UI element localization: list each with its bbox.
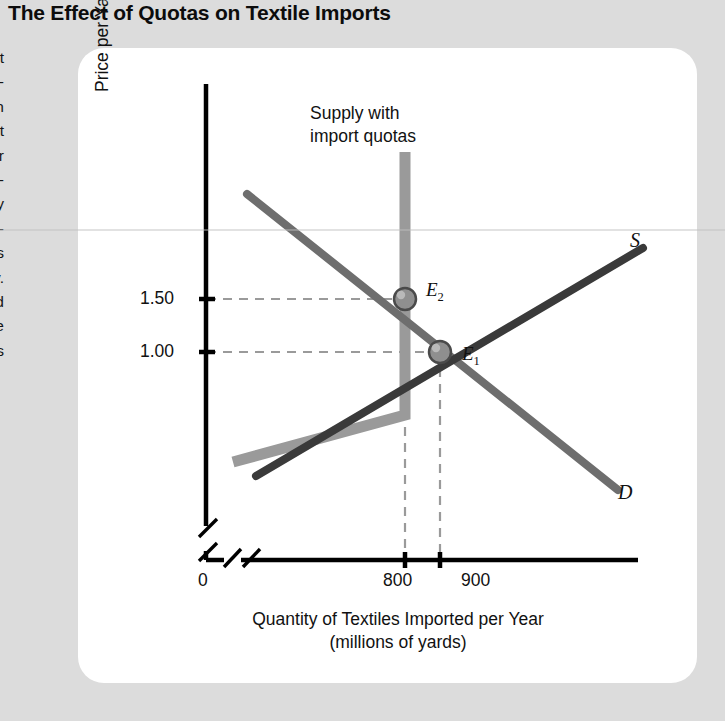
x-tick-label-800: 800 xyxy=(383,570,412,591)
equilibrium-2-subscript: 2 xyxy=(438,290,444,304)
chart-axes xyxy=(206,84,638,560)
equilibrium-1-label: E1 xyxy=(462,343,480,369)
equilibrium-1-subscript: 1 xyxy=(474,354,480,368)
equilibrium-2-letter: E xyxy=(426,279,438,300)
y-tick-label-150: 1.50 xyxy=(140,288,174,309)
supply-curve-label: S xyxy=(630,229,640,252)
figure-card: Supply with import quotas S D E2 E1 1.50… xyxy=(78,48,697,683)
page-title: The Effect of Quotas on Textile Imports xyxy=(8,1,391,25)
equilibrium-1-letter: E xyxy=(462,343,474,364)
demand-curve-label: D xyxy=(618,481,632,504)
y-tick-label-100: 1.00 xyxy=(140,341,174,362)
x-axis-title-line1: Quantity of Textiles Imported per Year xyxy=(178,608,618,631)
margin-caption-text: point f tex- d each ates at 0 per ern- o… xyxy=(0,46,4,363)
quota-annotation-line1: Supply with xyxy=(310,102,416,125)
marker-e1-highlight xyxy=(432,344,440,352)
quota-annotation-line2: import quotas xyxy=(310,125,416,148)
curve-supply xyxy=(256,248,643,476)
y-axis-title: Price per Yard of Imported Textile ($) xyxy=(92,0,113,140)
marker-e2-highlight xyxy=(397,291,405,299)
x-tick-label-900: 900 xyxy=(461,570,490,591)
x-break-slash-left xyxy=(224,549,241,567)
quota-annotation: Supply with import quotas xyxy=(310,102,416,148)
marker-e1 xyxy=(429,341,451,363)
equilibrium-2-label: E2 xyxy=(426,279,444,305)
x-axis-title-line2: (millions of yards) xyxy=(178,631,618,654)
marker-e2 xyxy=(394,288,416,310)
origin-label: 0 xyxy=(198,570,208,591)
x-axis-title: Quantity of Textiles Imported per Year (… xyxy=(178,608,618,654)
